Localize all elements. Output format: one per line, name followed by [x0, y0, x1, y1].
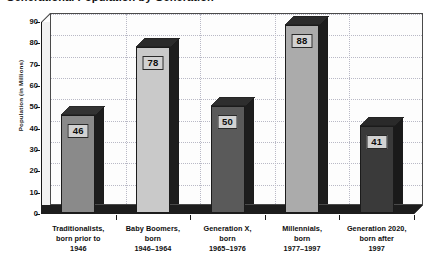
x-category-label: Generation 2020,born after1997: [339, 224, 414, 254]
bar-value-label: 50: [217, 115, 238, 129]
bar-side-face: [319, 16, 328, 204]
y-tick-label: 40: [14, 125, 38, 133]
bar[interactable]: 50: [211, 97, 245, 213]
x-category-label: Generation X,born1965–1976: [190, 224, 265, 254]
x-axis-category-labels: Traditionalists,born prior to1946Baby Bo…: [41, 224, 414, 264]
bar[interactable]: 78: [136, 38, 170, 213]
bar-value-label: 88: [292, 34, 313, 48]
y-tick-mark: [36, 65, 40, 66]
y-tick-mark: [36, 193, 40, 194]
y-tick-label: 60: [14, 82, 38, 90]
plot-left-wall: [41, 22, 50, 214]
x-tick-mark: [190, 215, 191, 220]
bar-value-label: 46: [68, 124, 89, 138]
y-tick-label: 50: [14, 103, 38, 111]
bar-front-face: [285, 25, 319, 213]
x-category-label-line: 1977–1997: [265, 244, 340, 254]
y-tick-mark: [36, 43, 40, 44]
y-tick-label: 20: [14, 167, 38, 175]
bar-side-face: [394, 117, 403, 204]
x-tick-mark: [116, 215, 117, 220]
y-tick-mark: [36, 171, 40, 172]
bar-side-face: [245, 97, 254, 204]
x-category-label-line: Generation 2020,: [339, 224, 414, 234]
x-category-label: Baby Boomers,born1946–1964: [116, 224, 191, 254]
horizontal-gridline: [51, 35, 422, 36]
bar-top-face: [61, 106, 105, 115]
y-tick-label: 70: [14, 61, 38, 69]
bar-top-face: [211, 97, 255, 106]
y-tick-mark: [36, 86, 40, 87]
x-category-label-line: born: [190, 234, 265, 244]
y-tick-mark: [36, 129, 40, 130]
x-tick-mark: [265, 215, 266, 220]
vertical-gridline: [275, 14, 276, 204]
horizontal-gridline: [51, 14, 422, 15]
y-axis-ticks: 9080706050403020100: [10, 0, 38, 264]
vertical-gridline: [200, 14, 201, 204]
horizontal-gridline: [51, 78, 422, 79]
bar-value-label: 41: [366, 135, 387, 149]
y-tick-label: 90: [14, 18, 38, 26]
x-category-label-line: 1946–1964: [116, 244, 191, 254]
horizontal-gridline: [51, 57, 422, 58]
bar-side-face: [170, 38, 179, 204]
x-category-label-line: born: [116, 234, 191, 244]
x-category-label: Millennials,born1977–1997: [265, 224, 340, 254]
x-category-label-line: born: [265, 234, 340, 244]
chart-title: Generational Population by Generation: [6, 0, 306, 3]
y-tick-label: 30: [14, 146, 38, 154]
bar-top-face: [360, 117, 404, 126]
y-tick-mark: [36, 107, 40, 108]
vertical-gridline: [126, 14, 127, 204]
y-tick-mark: [36, 150, 40, 151]
x-category-label-line: born after: [339, 234, 414, 244]
bar[interactable]: 46: [61, 106, 95, 213]
bar-side-face: [95, 106, 104, 204]
x-category-label-line: Generation X,: [190, 224, 265, 234]
bar[interactable]: 88: [285, 16, 319, 213]
bar-top-face: [136, 38, 180, 47]
plot-area: 4678508841: [41, 13, 423, 214]
y-tick-mark: [36, 22, 40, 23]
x-category-label-line: 1997: [339, 244, 414, 254]
x-tick-mark: [339, 215, 340, 220]
x-category-label-line: 1965–1976: [190, 244, 265, 254]
bar-front-face: [136, 47, 170, 213]
bar-top-face: [285, 16, 329, 25]
x-category-label-line: Baby Boomers,: [116, 224, 191, 234]
y-tick-label: 80: [14, 39, 38, 47]
x-category-label-line: Traditionalists,: [41, 224, 116, 234]
y-tick-label: 10: [14, 189, 38, 197]
vertical-gridline: [349, 14, 350, 204]
x-category-label-line: born prior to: [41, 234, 116, 244]
bar-chart: Generational Population by Generation Po…: [0, 0, 426, 264]
plot-corner-bevel: [41, 13, 54, 26]
y-tick-label: 0: [14, 210, 38, 218]
x-category-label-line: 1946: [41, 244, 116, 254]
x-category-label-line: Millennials,: [265, 224, 340, 234]
x-category-label: Traditionalists,born prior to1946: [41, 224, 116, 254]
y-axis-line: [41, 22, 42, 214]
bar[interactable]: 41: [360, 117, 394, 213]
x-tick-mark: [414, 215, 415, 220]
y-tick-mark: [36, 214, 40, 215]
bar-value-label: 78: [142, 56, 163, 70]
